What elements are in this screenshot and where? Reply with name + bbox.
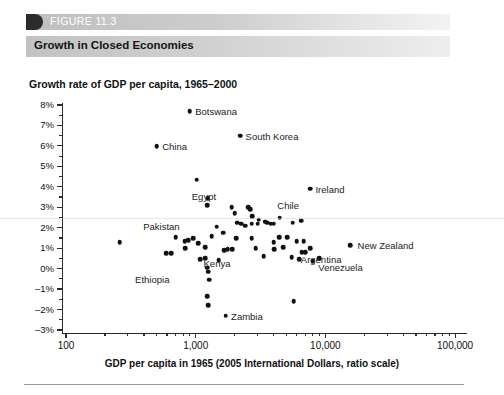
data-point: [230, 205, 235, 210]
y-tick-minor: [59, 156, 63, 157]
data-point: [186, 238, 191, 243]
point-label-ireland: Ireland: [315, 183, 344, 194]
data-point: [173, 235, 178, 240]
data-point: [198, 257, 203, 262]
y-tick-label: 5%: [20, 160, 54, 171]
data-point: [195, 177, 200, 182]
page-bottom-rule: [24, 384, 464, 385]
y-tick-minor: [59, 176, 63, 177]
data-point: [164, 251, 169, 256]
data-point: [239, 221, 244, 226]
data-point: [289, 255, 294, 260]
scatter-plot: 8%7%6%5%4%3%2%1%0%–1%–2%–3% 1001,00010,0…: [0, 0, 504, 395]
data-point: [301, 239, 306, 244]
y-tick-label: 3%: [20, 201, 54, 212]
x-tick-minor: [166, 333, 167, 337]
data-point: [206, 196, 211, 201]
data-point: [222, 248, 227, 253]
y-tick-mark: [57, 166, 63, 167]
y-tick-label: 2%: [20, 222, 54, 233]
point-label-ethiopia: Ethiopia: [135, 273, 169, 284]
figure-title-bar: Growth in Closed Economies: [26, 36, 450, 57]
y-tick-mark: [57, 248, 63, 249]
figure-header-bar: FIGURE 11.3: [26, 14, 450, 30]
y-tick-mark: [57, 268, 63, 269]
y-tick-mark: [57, 125, 63, 126]
x-tick-minor: [156, 333, 157, 337]
data-point: [253, 246, 258, 251]
x-tick-label: 10,000: [310, 340, 341, 351]
data-point: [303, 250, 308, 255]
data-point: [246, 205, 251, 210]
point-label-south-korea: South Korea: [246, 130, 299, 141]
point-label-china: China: [162, 140, 187, 151]
data-point: [294, 239, 299, 244]
data-point: [291, 299, 296, 304]
data-point: [299, 250, 304, 255]
y-tick-mark: [57, 329, 63, 330]
x-tick-minor: [312, 333, 313, 337]
x-tick-label: 100,000: [437, 340, 473, 351]
y-tick-minor: [59, 258, 63, 259]
figure-title: Growth in Closed Economies: [34, 39, 194, 51]
data-point: [205, 265, 210, 270]
x-tick-minor: [257, 333, 258, 337]
data-point: [205, 203, 210, 208]
x-tick-minor: [234, 333, 235, 337]
y-tick-minor: [59, 319, 63, 320]
data-point: [308, 246, 313, 251]
data-point: [265, 220, 270, 225]
data-point: [249, 236, 254, 241]
point-label-egypt: Egypt: [192, 191, 216, 202]
data-point: [187, 109, 192, 114]
x-tick-minor: [296, 333, 297, 337]
x-tick-minor: [286, 333, 287, 337]
x-tick-major: [325, 333, 326, 339]
data-point: [255, 221, 260, 226]
data-point: [118, 240, 123, 245]
data-point: [348, 243, 353, 248]
y-tick-minor: [59, 299, 63, 300]
data-point: [234, 236, 239, 241]
point-label-pakistan: Pakistan: [143, 220, 179, 231]
x-tick-minor: [387, 333, 388, 337]
x-tick-minor: [364, 333, 365, 337]
data-point: [308, 187, 313, 192]
data-point: [232, 211, 237, 216]
data-point: [269, 221, 274, 226]
point-label-kenya: Kenya: [204, 258, 231, 269]
y-tick-mark: [57, 145, 63, 146]
data-point: [271, 221, 276, 226]
point-label-zambia: Zambia: [231, 310, 263, 321]
y-tick-mark: [57, 104, 63, 105]
x-tick-minor: [434, 333, 435, 337]
chart-title: Growth rate of GDP per capita, 1965–2000: [29, 78, 237, 90]
data-point: [183, 246, 188, 251]
y-tick-label: 8%: [20, 99, 54, 110]
data-point: [203, 256, 208, 261]
x-tick-minor: [183, 333, 184, 337]
figure-number-label: FIGURE 11.3: [50, 15, 117, 27]
point-label-chile: Chile: [277, 200, 299, 211]
y-tick-mark: [57, 227, 63, 228]
y-tick-mark: [57, 309, 63, 310]
y-tick-label: 4%: [20, 181, 54, 192]
x-tick-minor: [104, 333, 105, 337]
x-tick-label: 100: [58, 340, 75, 351]
data-point: [223, 313, 228, 318]
x-tick-major: [455, 333, 456, 339]
x-tick-minor: [143, 333, 144, 337]
figure-tab-marker: [26, 14, 43, 30]
y-tick-minor: [59, 278, 63, 279]
data-point: [230, 247, 235, 252]
x-tick-label: 1,000: [183, 340, 208, 351]
data-point: [205, 294, 210, 299]
data-point: [238, 133, 243, 138]
x-tick-minor: [403, 333, 404, 337]
data-point: [169, 251, 174, 256]
data-point: [248, 207, 253, 212]
data-point: [191, 236, 196, 241]
data-point: [317, 256, 322, 261]
y-tick-label: –1%: [20, 283, 54, 294]
x-axis-caption: GDP per capita in 1965 (2005 Internation…: [0, 358, 504, 369]
